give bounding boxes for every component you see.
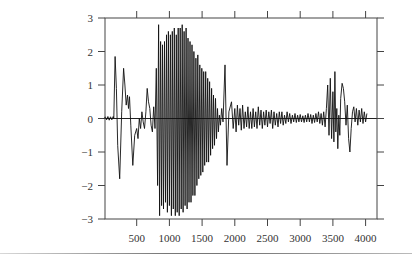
y-tick-label: −2 [81, 180, 93, 192]
y-tick-label: −1 [81, 146, 93, 158]
y-tick-label: −3 [81, 213, 93, 225]
x-tick-label: 3000 [289, 232, 312, 244]
x-tick-label: 2500 [257, 232, 280, 244]
page-divider [0, 253, 412, 254]
series-line-waveform [104, 25, 367, 216]
x-axis-labels: 500 1000 1500 2000 2500 3000 3500 4000 [128, 232, 377, 244]
x-tick-label: 500 [128, 232, 145, 244]
y-tick-label: 0 [88, 113, 94, 125]
y-tick-label: 1 [88, 79, 94, 91]
y-tick-label: 2 [88, 46, 94, 58]
y-tick-label: 3 [88, 12, 94, 24]
x-tick-label: 2000 [224, 232, 247, 244]
x-tick-label: 1000 [158, 232, 181, 244]
x-tick-label: 4000 [355, 232, 378, 244]
waveform-chart: −3 −2 −1 0 1 2 3 500 1000 1500 2000 2500… [0, 0, 412, 263]
x-tick-label: 1500 [191, 232, 214, 244]
y-axis-labels: −3 −2 −1 0 1 2 3 [81, 12, 93, 225]
x-tick-label: 3500 [322, 232, 345, 244]
